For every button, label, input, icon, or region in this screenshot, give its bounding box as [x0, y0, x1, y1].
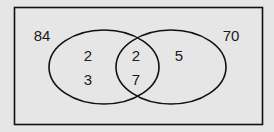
left-only-top-value: 2 — [84, 48, 92, 63]
set-a-ellipse — [49, 30, 159, 104]
left-only-bottom-value: 3 — [84, 72, 92, 87]
universal-outside-label: 84 — [34, 28, 51, 43]
intersection-bottom-value: 7 — [132, 72, 140, 87]
set-b-ellipse — [116, 30, 226, 104]
right-only-value: 5 — [175, 48, 183, 63]
intersection-top-value: 2 — [132, 48, 140, 63]
venn-diagram-canvas — [0, 0, 274, 132]
set-b-outside-label: 70 — [223, 28, 240, 43]
